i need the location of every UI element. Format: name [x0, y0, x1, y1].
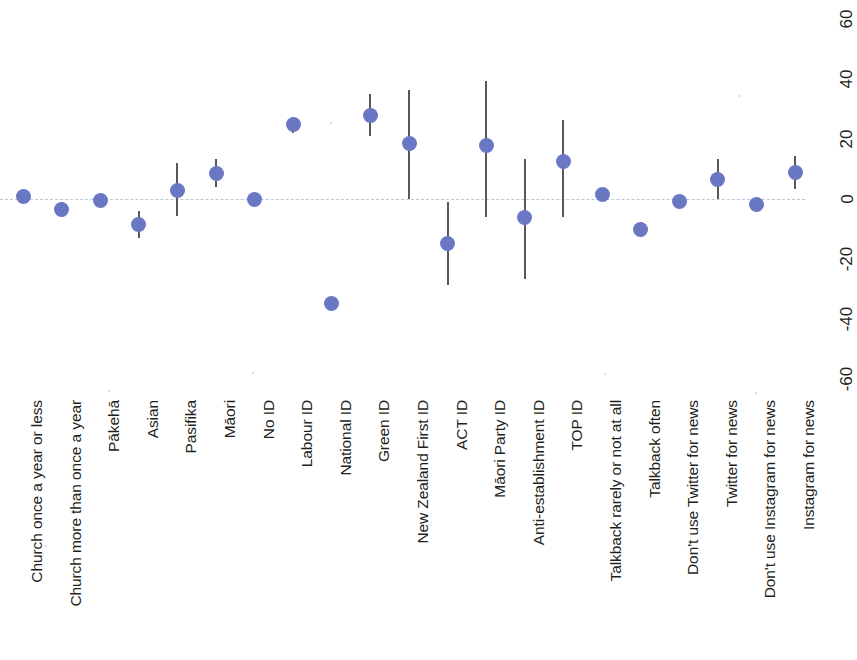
x-axis-tick-label: Asian — [145, 400, 161, 438]
x-axis-tick-label-text: Pasifika — [183, 400, 199, 453]
estimate-dot[interactable] — [749, 197, 764, 212]
x-axis-tick-label: Māori Party ID — [492, 400, 508, 498]
x-axis-tick-label-text: Māori — [222, 400, 238, 438]
x-axis-tick-label-text: Anti-establishment ID — [531, 400, 547, 545]
estimate-dot[interactable] — [672, 194, 687, 209]
x-axis-tick-label-text: ACT ID — [454, 400, 470, 450]
estimate-dot[interactable] — [131, 217, 146, 232]
estimate-dot[interactable] — [286, 117, 301, 132]
estimate-dot[interactable] — [788, 165, 803, 180]
estimate-dot[interactable] — [209, 166, 224, 181]
x-axis-tick-label: No ID — [261, 400, 277, 439]
x-axis-tick-label: Don't use Twitter for news — [685, 400, 701, 575]
estimate-dot[interactable] — [479, 138, 494, 153]
estimate-dot[interactable] — [440, 236, 455, 251]
x-axis-tick-label: Labour ID — [299, 400, 315, 467]
y-axis-tick-label: -20 — [839, 247, 856, 272]
y-axis-tick-label: 60 — [839, 10, 856, 29]
scan-speck — [738, 95, 740, 97]
x-axis-tick-label-text: No ID — [261, 400, 277, 439]
x-axis-tick-label: National ID — [338, 400, 354, 476]
scan-speck — [604, 373, 606, 375]
x-axis-tick-label-text: Don't use Instagram for news — [762, 400, 778, 598]
x-axis-tick-label: Twitter for news — [724, 400, 740, 507]
scan-speck — [108, 390, 110, 392]
estimate-dot[interactable] — [16, 189, 31, 204]
estimate-dot[interactable] — [54, 202, 69, 217]
estimate-dot[interactable] — [363, 108, 378, 123]
x-axis-tick-label: Talkback often — [647, 400, 663, 498]
x-axis-tick-label-text: Talkback rarely or not at all — [608, 400, 624, 581]
estimate-dot[interactable] — [633, 222, 648, 237]
x-axis-tick-label-text: Instagram for news — [801, 400, 817, 530]
estimate-dot[interactable] — [556, 154, 571, 169]
x-axis-tick-label-text: Asian — [145, 400, 161, 438]
y-axis-tick-label: 0 — [839, 194, 856, 203]
x-axis-tick-label: Church once a year or less — [29, 400, 45, 583]
x-axis-tick-label: Church more than once a year — [68, 400, 84, 607]
y-axis-tick-label: 20 — [839, 130, 856, 149]
x-axis-tick-label: Green ID — [376, 400, 392, 462]
scan-speck — [330, 122, 332, 124]
estimate-dot[interactable] — [93, 193, 108, 208]
x-axis-tick-label-text: Green ID — [376, 400, 392, 462]
scan-speck — [44, 545, 46, 547]
x-axis-tick-label-text: Don't use Twitter for news — [685, 400, 701, 575]
x-axis-tick-label: New Zealand First ID — [415, 400, 431, 544]
x-axis-tick-label-text: TOP ID — [569, 400, 585, 451]
x-axis-tick-label: TOP ID — [569, 400, 585, 451]
x-axis-tick-label-text: Church more than once a year — [68, 400, 84, 607]
y-axis-tick-label: 40 — [839, 70, 856, 89]
y-axis-tick-label: -40 — [839, 307, 856, 332]
estimate-dot[interactable] — [247, 192, 262, 207]
y-axis-tick-group: 6040200-20-40-60 — [805, 0, 851, 400]
y-axis-tick-label: -60 — [839, 367, 856, 392]
estimate-dot[interactable] — [517, 210, 532, 225]
x-axis-tick-label-text: Māori Party ID — [492, 400, 508, 498]
x-axis-tick-label: Pasifika — [183, 400, 199, 453]
x-axis-tick-label-text: Talkback often — [647, 400, 663, 498]
x-axis-label-group: Church once a year or lessChurch more th… — [0, 400, 805, 660]
x-axis-tick-label: Don't use Instagram for news — [762, 400, 778, 598]
x-axis-tick-label-text: Labour ID — [299, 400, 315, 467]
scan-speck — [252, 372, 254, 374]
x-axis-tick-label-text: New Zealand First ID — [415, 400, 431, 544]
x-axis-tick-label-text: Church once a year or less — [29, 400, 45, 583]
estimate-dot[interactable] — [324, 296, 339, 311]
estimate-dot[interactable] — [170, 183, 185, 198]
x-axis-tick-label: Talkback rarely or not at all — [608, 400, 624, 581]
x-axis-tick-label-text: Pākehā — [106, 400, 122, 452]
estimate-dot[interactable] — [402, 136, 417, 151]
x-axis-tick-label-text: Twitter for news — [724, 400, 740, 507]
x-axis-tick-label: Pākehā — [106, 400, 122, 452]
plot-area — [0, 0, 805, 400]
x-axis-tick-label: Anti-establishment ID — [531, 400, 547, 545]
x-axis-tick-label: Māori — [222, 400, 238, 438]
estimate-dot[interactable] — [595, 187, 610, 202]
x-axis-tick-label: Instagram for news — [801, 400, 817, 530]
x-axis-tick-label-text: National ID — [338, 400, 354, 476]
x-axis-tick-label: ACT ID — [454, 400, 470, 450]
estimate-dot[interactable] — [710, 172, 725, 187]
scan-speck — [755, 392, 757, 394]
